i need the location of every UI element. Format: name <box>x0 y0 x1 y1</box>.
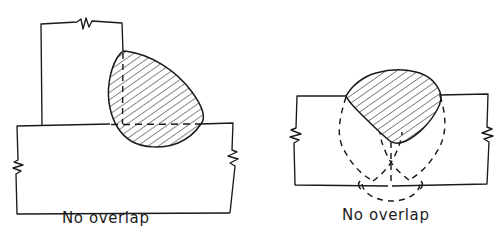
groove-bead-hatching <box>340 64 450 150</box>
horizontal-plate-left-outline <box>13 124 230 214</box>
left-panel-drawing <box>13 18 238 214</box>
horizontal-plate-right-outline <box>200 123 238 213</box>
fillet-bead-hatching <box>100 42 220 160</box>
left-panel-caption: No overlap <box>62 209 150 227</box>
right-panel-caption: No overlap <box>342 206 430 224</box>
right-panel-drawing <box>290 64 493 201</box>
weld-profile-figure: No overlap No overlap <box>0 0 498 249</box>
root-arc-left-tick <box>359 181 361 189</box>
root-reinforcement-hidden-arc <box>362 184 420 201</box>
